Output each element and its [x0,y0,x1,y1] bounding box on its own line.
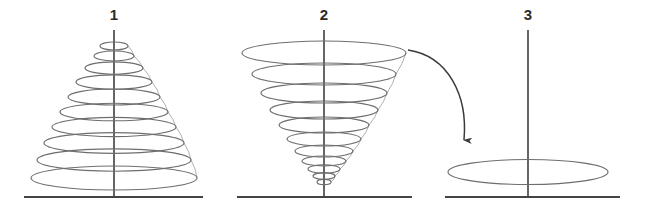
panel-label-3: 3 [524,6,532,23]
panels-group: 123 [24,6,620,197]
panel-3: 3 [445,6,620,197]
spiral-connector [346,151,353,161]
spiral-connector [396,53,406,74]
spiral-connector [340,161,346,169]
spiral-connector [160,97,168,112]
spiral-connector [143,68,152,82]
panel-1: 1 [24,6,203,197]
spiral-connector [128,46,134,56]
spiral-connector [176,127,184,143]
spiral-connector [387,74,396,93]
spiral-diagram: 123 [0,0,645,210]
spiral-connector [361,125,369,139]
spiral-connector [168,112,176,127]
spiral-connector [378,93,387,110]
panel-label-1: 1 [110,6,118,23]
panel-label-2: 2 [320,6,328,23]
diagram-canvas: 123 [0,0,645,210]
transition-arrow-group [408,50,465,140]
panel-2: 2 [237,6,412,197]
transition-arrow [408,50,465,140]
spiral-connector [369,110,378,125]
spiral-connector [191,160,197,178]
spiral-connector [152,82,160,97]
spiral-connector [335,169,340,176]
spiral-connector [134,56,143,68]
spiral-connector [353,139,361,151]
spiral-connector [184,143,191,160]
